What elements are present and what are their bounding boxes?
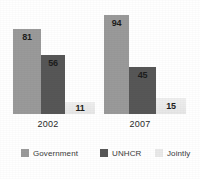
bar-value-label: 45 [129,70,156,80]
bar-chart: 81 56 11 94 45 15 [0,0,200,179]
bar-value-label: 81 [13,32,41,42]
bar-2002-government[interactable]: 81 [13,29,41,114]
bar-2002-unhcr[interactable]: 56 [41,55,65,114]
bar-group-2002: 81 56 11 [13,0,83,114]
bar-value-label: 15 [156,101,186,111]
legend-item-government[interactable]: Government [21,146,78,160]
bar-2007-unhcr[interactable]: 45 [129,67,156,114]
category-label-2007: 2007 [104,119,176,129]
legend-label: UNHCR [112,149,141,158]
legend-swatch-icon [100,149,108,157]
plot-area: 81 56 11 94 45 15 [0,0,200,114]
chart-legend: Government UNHCR Jointly [0,146,200,166]
bar-value-label: 11 [65,103,95,113]
legend-swatch-icon [155,149,163,157]
legend-swatch-icon [21,149,29,157]
bar-2007-jointly[interactable]: 15 [156,98,186,114]
bar-value-label: 56 [41,58,65,68]
bar-group-2007: 94 45 15 [104,0,176,114]
legend-label: Jointly [167,149,190,158]
bar-2007-government[interactable]: 94 [104,15,129,114]
legend-item-unhcr[interactable]: UNHCR [100,146,141,160]
category-label-2002: 2002 [13,119,83,129]
legend-label: Government [33,149,78,158]
bar-fill [104,15,129,114]
bar-value-label: 94 [104,18,129,28]
legend-item-jointly[interactable]: Jointly [155,146,190,160]
bar-2002-jointly[interactable]: 11 [65,102,95,114]
